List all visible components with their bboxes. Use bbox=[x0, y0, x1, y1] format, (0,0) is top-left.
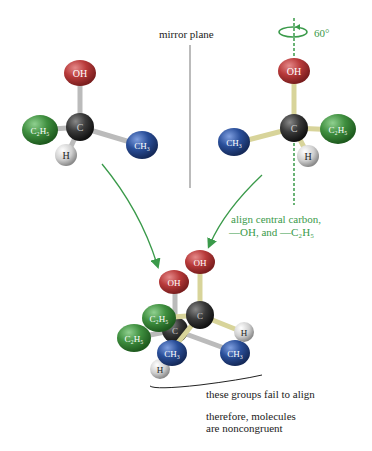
align-label-line2: —OH, and —C₂H₅ bbox=[229, 226, 314, 238]
left-molecule: OH C₂H₅ CH₃ C H bbox=[22, 60, 158, 166]
svg-text:H: H bbox=[62, 150, 69, 161]
align-label-line1: align central carbon, bbox=[231, 213, 321, 225]
rotation-arrow-icon bbox=[279, 27, 307, 37]
mirror-plane-label: mirror plane bbox=[159, 28, 214, 40]
conclusion-line1: therefore, molecules bbox=[206, 410, 296, 422]
diagram-canvas: OH C₂H₅ CH₃ C H OH CH₃ C₂H₅ C H bbox=[0, 0, 372, 451]
svg-text:CH₃: CH₃ bbox=[226, 138, 242, 148]
superimposed-molecules: OH C₂H₅ C H OH C₂H₅ CH₃ CH₃ C H bbox=[117, 250, 254, 379]
svg-text:H: H bbox=[304, 151, 311, 162]
svg-text:OH: OH bbox=[168, 278, 181, 288]
conclusion-line2: are noncongruent bbox=[206, 422, 283, 434]
svg-text:C₂H₅: C₂H₅ bbox=[329, 125, 348, 135]
svg-text:C₂H₅: C₂H₅ bbox=[150, 314, 169, 324]
svg-text:CH₃: CH₃ bbox=[227, 349, 243, 359]
svg-text:CH₃: CH₃ bbox=[164, 349, 180, 359]
right-molecule: OH CH₃ C₂H₅ C H bbox=[218, 18, 356, 205]
svg-text:C: C bbox=[77, 122, 84, 133]
svg-text:C: C bbox=[172, 326, 178, 336]
fail-align-label: these groups fail to align bbox=[206, 388, 315, 400]
svg-text:C₂H₅: C₂H₅ bbox=[125, 334, 144, 344]
svg-text:OH: OH bbox=[287, 66, 301, 77]
bracket bbox=[150, 375, 262, 388]
left-arrow bbox=[102, 164, 157, 264]
svg-text:OH: OH bbox=[194, 258, 207, 268]
svg-text:OH: OH bbox=[73, 68, 87, 79]
svg-text:C: C bbox=[291, 123, 298, 134]
svg-text:C₂H₅: C₂H₅ bbox=[31, 126, 50, 136]
svg-text:H: H bbox=[157, 365, 164, 375]
svg-text:C: C bbox=[197, 311, 203, 321]
svg-text:CH₃: CH₃ bbox=[134, 141, 150, 151]
svg-text:H: H bbox=[241, 328, 248, 338]
rotation-label: 60° bbox=[314, 27, 329, 39]
